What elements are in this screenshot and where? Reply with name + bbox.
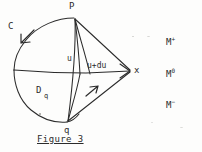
label-domain-subscript-q: q bbox=[44, 93, 48, 100]
label-m-zero: M0 bbox=[166, 68, 175, 79]
curve-direction-arrowhead bbox=[21, 30, 34, 43]
label-ray-u-plus-du: u+du bbox=[87, 62, 106, 70]
edge-p-to-q bbox=[68, 19, 75, 121]
scan-speck bbox=[39, 113, 41, 115]
figure-page: P C u u+du x D q q M+ M0 M− Figure 3 bbox=[0, 0, 202, 152]
label-point-p: P bbox=[69, 2, 74, 11]
scan-speck bbox=[147, 36, 150, 37]
figure-caption: Figure 3 bbox=[37, 135, 84, 144]
edge-q-to-x bbox=[68, 72, 130, 121]
label-curve-c: C bbox=[8, 22, 13, 31]
edge-interior-to-q bbox=[68, 74, 80, 121]
curve-c-upper-arc bbox=[14, 18, 74, 70]
chord-horizontal bbox=[14, 70, 130, 73]
label-m-zero-sup: 0 bbox=[171, 67, 175, 74]
scan-speck bbox=[151, 122, 153, 123]
scan-speck bbox=[132, 36, 134, 37]
scan-speck bbox=[180, 127, 183, 128]
label-point-x: x bbox=[134, 66, 139, 75]
label-m-minus-sup: − bbox=[171, 98, 175, 105]
label-domain-d: D bbox=[36, 86, 41, 95]
label-m-plus: M+ bbox=[166, 36, 175, 47]
label-m-plus-sup: + bbox=[171, 35, 175, 42]
label-m-minus: M− bbox=[166, 99, 175, 110]
label-ray-u: u bbox=[67, 55, 72, 63]
edge-q-to-x-arrowhead bbox=[86, 86, 98, 96]
